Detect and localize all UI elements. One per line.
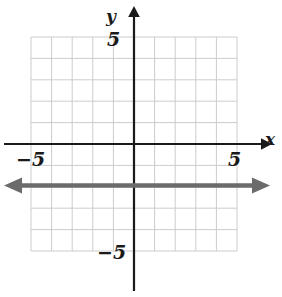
y-axis-label: y: [105, 6, 117, 26]
x-axis-tick-label-negative: −5: [16, 148, 45, 170]
x-axis-tick-label-positive: 5: [228, 148, 241, 170]
x-axis-label: x: [264, 129, 276, 149]
y-axis-tick-label-positive: 5: [107, 28, 120, 50]
y-axis-tick-label-negative: −5: [97, 241, 126, 263]
coordinate-plane-figure: x y 5 −5 5 −5: [0, 0, 282, 297]
graph-canvas: x y 5 −5 5 −5: [0, 0, 282, 297]
